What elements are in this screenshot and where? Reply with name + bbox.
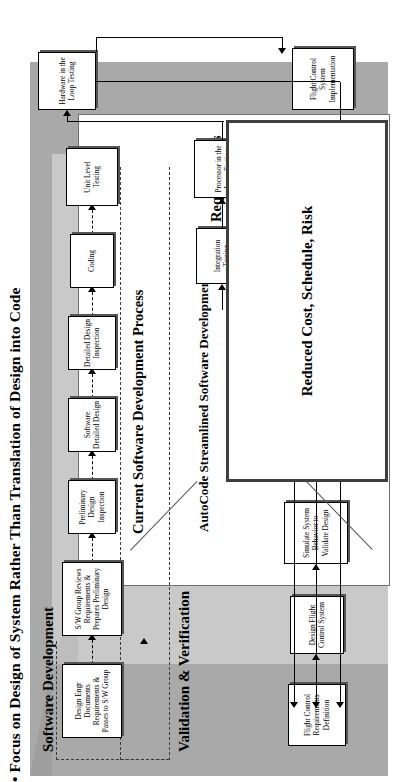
arrow-sdd-to-ddi	[92, 374, 93, 398]
arrowhead-integration-to-processor	[218, 198, 226, 204]
arrowhead-feedback-to-swgroup	[140, 638, 148, 644]
box-unit-level-testing[interactable]: Unit Level Testing	[66, 148, 118, 206]
box-coding[interactable]: Coding	[70, 234, 114, 288]
box-label: S/W Group Reviews Requirements & Prepare…	[74, 565, 110, 633]
box-design-engr-documents[interactable]: Design Engr Documents Requirements & Pas…	[62, 664, 122, 738]
box-hardware-in-the-loop-testing[interactable]: Hardware in the Loop Testing	[38, 52, 96, 110]
arrowhead-hardware-to-impl	[278, 48, 286, 54]
arrow-ddi-to-coding	[92, 292, 93, 316]
arrow-processor-to-hardware-v	[68, 121, 224, 122]
page-title: • Focus on Design of System Rather Than …	[6, 0, 24, 782]
feedback-loop-3-v	[96, 81, 340, 82]
box-label: Flight Control System Implementation	[309, 51, 336, 107]
band-label-validation-verification: Validation & Verification	[176, 591, 193, 752]
arrow-swgroup-to-pdi	[92, 538, 93, 562]
band-label-software-development: Software Development	[40, 607, 57, 752]
box-flight-control-system-implementation[interactable]: Flight Control System Implementation	[292, 48, 354, 110]
arrow-design-to-swgroup	[92, 640, 93, 664]
box-label: Preliminary Design Inspection	[78, 483, 105, 531]
arrowhead-feedback-loop-2	[312, 702, 320, 708]
arrowhead-unittest-to-integration	[218, 284, 226, 290]
box-label: Coding	[87, 250, 96, 272]
arrow-hardware-to-impl-h2	[282, 37, 283, 48]
arrow-hardware-to-impl-h	[96, 37, 97, 52]
box-preliminary-design-inspection[interactable]: Preliminary Design Inspection	[68, 480, 116, 534]
box-label: Detailed Design Inspection	[83, 319, 101, 367]
box-sw-group-reviews[interactable]: S/W Group Reviews Requirements & Prepare…	[62, 562, 122, 636]
arrow-integration-to-processor	[222, 204, 223, 228]
benefit-callout: Reduced Cost, Schedule, Risk	[226, 120, 388, 482]
arrowhead-feedback-loop-3	[336, 702, 344, 708]
box-label: Software Detailed Design	[83, 401, 101, 449]
arrow-processor-to-hardware-h	[222, 122, 223, 140]
arrow-pdi-to-sdd	[92, 456, 93, 480]
arrow-coding-to-unit	[92, 210, 93, 234]
box-label: Unit Level Testing	[83, 151, 101, 203]
arrowhead-processor-to-hardware	[63, 110, 71, 116]
box-label: Hardware in the Loop Testing	[58, 55, 76, 107]
arrowhead-feedback-loop-1	[290, 702, 298, 708]
box-detailed-design-inspection[interactable]: Detailed Design Inspection	[68, 316, 116, 370]
box-software-detailed-design[interactable]: Software Detailed Design	[68, 398, 116, 452]
arrow-hardware-to-impl	[96, 37, 282, 38]
box-label: Design Engr Documents Requirements & Pas…	[74, 667, 110, 735]
benefit-text: Reduced Cost, Schedule, Risk	[299, 206, 316, 396]
slide-canvas: • Focus on Design of System Rather Than …	[0, 0, 394, 782]
arrow-unittest-to-integration	[222, 290, 223, 310]
